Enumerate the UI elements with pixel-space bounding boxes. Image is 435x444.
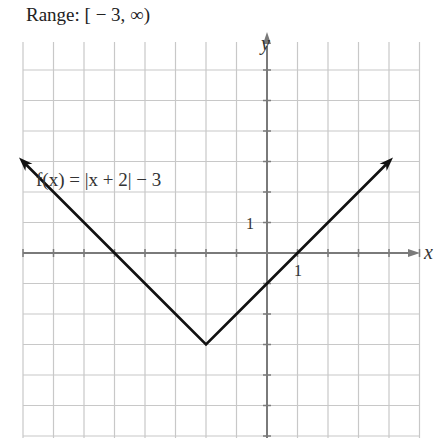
graph: f(x) = |x + 2| − 3xy11 [0,0,435,444]
x-tick-label-1: 1 [294,262,302,279]
y-axis-label: y [259,32,270,55]
grid [23,42,420,438]
x-axis-label: x [423,241,433,263]
labels: f(x) = |x + 2| − 3xy11 [36,32,433,279]
x-axis-arrow-icon [408,249,420,257]
axes [23,32,420,438]
function-label: f(x) = |x + 2| − 3 [36,169,161,191]
y-tick-label-1: 1 [246,215,254,232]
